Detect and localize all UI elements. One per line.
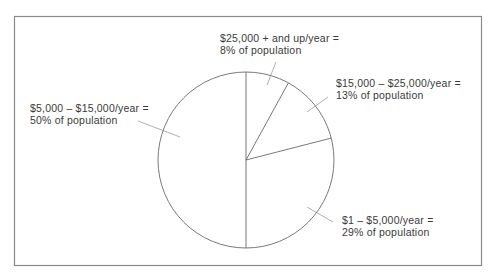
- slice-label-line1: $25,000 + and up/year =: [220, 32, 339, 44]
- slice-label-line2: 29% of population: [342, 226, 429, 238]
- slice-label-line1: $15,000 – $25,000/year =: [336, 77, 461, 89]
- slice-label-line1: $1 – $5,000/year =: [342, 214, 433, 226]
- slice-label-line1: $5,000 – $15,000/year =: [30, 102, 149, 114]
- slice-label-line2: 8% of population: [220, 44, 301, 56]
- slice-label-line2: 50% of population: [30, 114, 117, 126]
- income-distribution-pie-chart: $25,000 + and up/year = 8% of population…: [0, 0, 497, 279]
- slice-label-1-5000: $1 – $5,000/year = 29% of population: [342, 214, 433, 238]
- slice-label-line2: 13% of population: [336, 89, 423, 101]
